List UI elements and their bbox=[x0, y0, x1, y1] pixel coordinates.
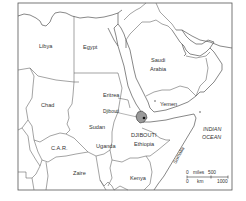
city-marker bbox=[154, 100, 155, 101]
map-of-northeast-africa: Libya Egypt Saudi Arabia Chad Eritrea Dj… bbox=[0, 0, 246, 201]
label-arabia: Arabia bbox=[150, 66, 167, 72]
scale-miles-zero: 0 bbox=[186, 170, 189, 175]
scale-km-zero: 0 bbox=[186, 179, 189, 184]
label-egypt: Egypt bbox=[83, 44, 98, 50]
label-sudan: Sudan bbox=[89, 124, 105, 130]
label-indian-ocean-line2: OCEAN bbox=[202, 134, 221, 140]
scale-km-unit: km bbox=[197, 179, 203, 184]
label-djibouti-small: Djibouti bbox=[103, 109, 119, 114]
scale-miles-max: 500 bbox=[208, 170, 216, 175]
label-zaire: Zaire bbox=[73, 170, 86, 176]
label-eritrea: Eritrea bbox=[103, 92, 120, 98]
scale-km-max: 1000 bbox=[217, 179, 228, 184]
label-ethiopia: Ethiopia bbox=[134, 141, 155, 147]
label-saudi: Saudi bbox=[151, 57, 165, 63]
socotra-island bbox=[199, 111, 201, 113]
label-car: C.A.R. bbox=[51, 145, 68, 151]
map-frame bbox=[18, 3, 232, 190]
label-yemen: Yemen bbox=[160, 101, 177, 107]
label-djibouti-caps: DJIBOUTI bbox=[131, 132, 157, 138]
label-chad: Chad bbox=[41, 102, 54, 108]
scale-miles-unit: miles bbox=[193, 170, 205, 175]
label-libya: Libya bbox=[39, 43, 53, 49]
djibouti-capital-marker bbox=[143, 117, 146, 120]
label-indian-ocean-line1: INDIAN bbox=[203, 126, 221, 132]
label-kenya: Kenya bbox=[130, 175, 147, 181]
label-uganda: Uganda bbox=[96, 143, 116, 149]
